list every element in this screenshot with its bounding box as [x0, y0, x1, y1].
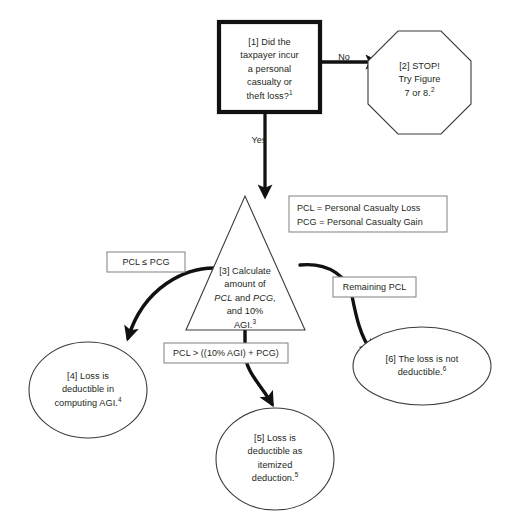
node-4-line2: deductible in [62, 384, 114, 394]
flowchart-canvas: [1] Did thetaxpayer incura personalcasua… [0, 0, 508, 524]
node-2-line3: 7 or 8. [404, 88, 430, 98]
node-3-line2: amount of [224, 279, 265, 289]
node-1-line5: theft loss? [246, 91, 288, 101]
legend-label: PCL = Personal Casualty LossPCG = Person… [297, 202, 443, 229]
node-1-line1: [1] Did the [248, 37, 290, 47]
node-1-footnote: 1 [289, 89, 293, 96]
node-1-line3: a personal [248, 64, 291, 74]
legend-line1: PCL = Personal Casualty Loss [297, 203, 420, 213]
edge-label-no: No [329, 51, 359, 63]
node-6-line2: deductible. [398, 367, 443, 377]
node-3-line1: [3] Calculate [219, 266, 271, 276]
edge-label-pcl-gt: PCL > ((10% AGI) + PCG) [164, 347, 288, 359]
node-4-line1: [4] Loss is [67, 371, 109, 381]
node-5-line4: deduction. [252, 473, 295, 483]
node-6-line1: [6] The loss is not [386, 354, 459, 364]
node-1-line2: taxpayer incur [240, 50, 298, 60]
node-6-footnote: 6 [443, 365, 447, 372]
edge-label-remaining-pcl: Remaining PCL [333, 281, 416, 293]
node-3-line3-and: and [232, 293, 253, 303]
node-3-line3-pcl: PCL [214, 293, 232, 303]
node-3-line4: and 10% [227, 306, 264, 316]
edge-label-yes: Yes [244, 134, 274, 146]
node-2-line1: [2] STOP! [399, 61, 440, 71]
node-5-label: [5] Loss isdeductible asitemizeddeductio… [216, 432, 334, 486]
node-5-footnote: 5 [295, 471, 299, 478]
node-4-label: [4] Loss isdeductible incomputing AGI.4 [29, 370, 147, 410]
node-6-label: [6] The loss is notdeductible.6 [357, 353, 487, 380]
node-2-footnote: 2 [431, 86, 435, 93]
edge-label-pcl-le-pcg: PCL ≤ PCG [107, 256, 185, 268]
node-4-footnote: 4 [118, 396, 122, 403]
node-5-line3: itemized [258, 460, 293, 470]
node-3-line5: AGI. [234, 320, 253, 330]
node-3-line3-pcg: PCG [253, 293, 273, 303]
node-2-line2: Try Figure [398, 74, 440, 84]
node-3-label: [3] Calculateamount ofPCL and PCG,and 10… [198, 265, 292, 332]
node-1-label: [1] Did thetaxpayer incura personalcasua… [221, 36, 318, 103]
node-5-line1: [5] Loss is [254, 433, 296, 443]
node-2-label: [2] STOP!Try Figure7 or 8.2 [374, 60, 465, 100]
legend-line2: PCG = Personal Casualty Gain [297, 217, 423, 227]
node-5-line2: deductible as [248, 446, 303, 456]
node-3-footnote: 3 [252, 318, 256, 325]
node-1-line4: casualty or [247, 77, 292, 87]
node-3-line3-comma: , [273, 293, 276, 303]
edge-pcl-gt-line [245, 330, 272, 404]
node-4-line3: computing AGI. [54, 398, 118, 408]
